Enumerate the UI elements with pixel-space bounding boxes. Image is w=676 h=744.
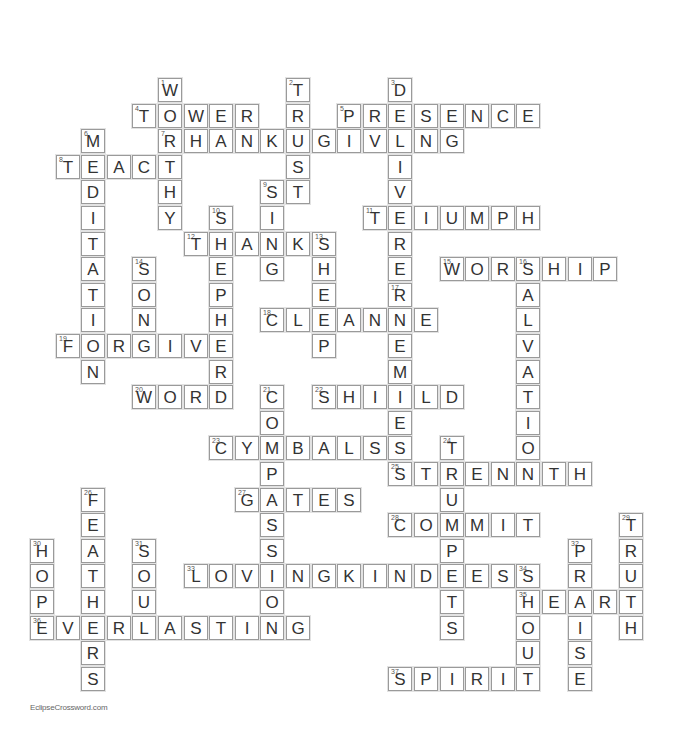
grid-cell[interactable]: A — [107, 155, 131, 179]
grid-cell[interactable]: Y — [235, 436, 259, 460]
grid-cell[interactable]: 26F — [81, 488, 105, 512]
grid-cell[interactable]: E — [388, 104, 412, 128]
grid-cell[interactable]: T — [516, 385, 540, 409]
grid-cell[interactable]: P — [440, 539, 464, 563]
grid-cell[interactable]: 12T — [184, 232, 208, 256]
grid-cell[interactable]: V — [235, 564, 259, 588]
grid-cell[interactable]: U — [440, 488, 464, 512]
grid-cell[interactable]: C — [132, 155, 156, 179]
grid-cell[interactable]: 16S — [516, 257, 540, 281]
grid-cell[interactable]: O — [414, 513, 438, 537]
grid-cell[interactable]: P — [414, 667, 438, 691]
grid-cell[interactable]: E — [465, 564, 489, 588]
grid-cell[interactable]: E — [209, 104, 233, 128]
grid-cell[interactable]: E — [440, 104, 464, 128]
grid-cell[interactable]: S — [286, 155, 310, 179]
grid-cell[interactable]: R — [440, 462, 464, 486]
grid-cell[interactable]: M — [465, 206, 489, 230]
grid-cell[interactable]: 22S — [312, 385, 336, 409]
grid-cell[interactable]: 37S — [388, 667, 412, 691]
grid-cell[interactable]: L — [337, 436, 361, 460]
grid-cell[interactable]: Y — [158, 206, 182, 230]
grid-cell[interactable]: M — [465, 513, 489, 537]
grid-cell[interactable]: 13S — [312, 232, 336, 256]
grid-cell[interactable]: 29T — [619, 513, 643, 537]
grid-cell[interactable]: T — [542, 462, 566, 486]
grid-cell[interactable]: 31S — [132, 539, 156, 563]
grid-cell[interactable]: A — [568, 590, 592, 614]
grid-cell[interactable]: 23C — [209, 436, 233, 460]
grid-cell[interactable]: A — [312, 436, 336, 460]
grid-cell[interactable]: H — [516, 206, 540, 230]
grid-cell[interactable]: I — [414, 206, 438, 230]
grid-cell[interactable]: D — [440, 385, 464, 409]
grid-cell[interactable]: E — [312, 488, 336, 512]
grid-cell[interactable]: E — [312, 283, 336, 307]
grid-cell[interactable]: G — [440, 129, 464, 153]
grid-cell[interactable]: 6M — [81, 129, 105, 153]
grid-cell[interactable]: U — [440, 206, 464, 230]
grid-cell[interactable]: S — [260, 539, 284, 563]
grid-cell[interactable]: T — [440, 590, 464, 614]
grid-cell[interactable]: M — [260, 436, 284, 460]
grid-cell[interactable]: D — [81, 180, 105, 204]
grid-cell[interactable]: R — [619, 539, 643, 563]
grid-cell[interactable]: I — [568, 257, 592, 281]
grid-cell[interactable]: 32P — [568, 539, 592, 563]
grid-cell[interactable]: R — [184, 385, 208, 409]
grid-cell[interactable]: U — [132, 590, 156, 614]
grid-cell[interactable]: R — [107, 616, 131, 640]
grid-cell[interactable]: I — [388, 385, 412, 409]
grid-cell[interactable]: 2T — [286, 78, 310, 102]
grid-cell[interactable]: E — [388, 257, 412, 281]
grid-cell[interactable]: N — [414, 129, 438, 153]
grid-cell[interactable]: S — [388, 436, 412, 460]
grid-cell[interactable]: P — [30, 590, 54, 614]
grid-cell[interactable]: I — [491, 667, 515, 691]
grid-cell[interactable]: H — [158, 180, 182, 204]
grid-cell[interactable]: I — [516, 411, 540, 435]
grid-cell[interactable]: G — [132, 334, 156, 358]
grid-cell[interactable]: H — [619, 616, 643, 640]
grid-cell[interactable]: 8T — [56, 155, 80, 179]
grid-cell[interactable]: W — [184, 104, 208, 128]
grid-cell[interactable]: O — [465, 257, 489, 281]
grid-cell[interactable]: N — [363, 308, 387, 332]
grid-cell[interactable]: 15W — [440, 257, 464, 281]
grid-cell[interactable]: U — [516, 641, 540, 665]
grid-cell[interactable]: E — [568, 667, 592, 691]
grid-cell[interactable]: T — [286, 488, 310, 512]
grid-cell[interactable]: L — [516, 308, 540, 332]
grid-cell[interactable]: E — [81, 616, 105, 640]
grid-cell[interactable]: N — [388, 308, 412, 332]
grid-cell[interactable]: A — [516, 360, 540, 384]
grid-cell[interactable]: E — [81, 513, 105, 537]
grid-cell[interactable]: P — [312, 334, 336, 358]
grid-cell[interactable]: H — [184, 129, 208, 153]
grid-cell[interactable]: O — [158, 104, 182, 128]
grid-cell[interactable]: I — [337, 129, 361, 153]
grid-cell[interactable]: H — [209, 308, 233, 332]
grid-cell[interactable]: 5P — [337, 104, 361, 128]
grid-cell[interactable]: I — [81, 308, 105, 332]
grid-cell[interactable]: I — [81, 206, 105, 230]
grid-cell[interactable]: 35H — [516, 590, 540, 614]
grid-cell[interactable]: 30H — [30, 539, 54, 563]
grid-cell[interactable]: I — [440, 667, 464, 691]
grid-cell[interactable]: T — [516, 667, 540, 691]
grid-cell[interactable]: 20W — [132, 385, 156, 409]
grid-cell[interactable]: T — [286, 180, 310, 204]
grid-cell[interactable]: O — [158, 385, 182, 409]
grid-cell[interactable]: U — [619, 564, 643, 588]
grid-cell[interactable]: S — [440, 616, 464, 640]
grid-cell[interactable]: O — [516, 436, 540, 460]
grid-cell[interactable]: G — [312, 564, 336, 588]
grid-cell[interactable]: 4T — [132, 104, 156, 128]
grid-cell[interactable]: S — [568, 641, 592, 665]
grid-cell[interactable]: N — [132, 308, 156, 332]
grid-cell[interactable]: 17R — [388, 283, 412, 307]
grid-cell[interactable]: D — [209, 385, 233, 409]
grid-cell[interactable]: E — [388, 334, 412, 358]
grid-cell[interactable]: R — [209, 360, 233, 384]
grid-cell[interactable]: H — [568, 462, 592, 486]
